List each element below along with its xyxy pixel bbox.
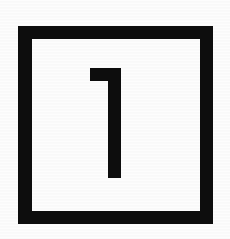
image-canvas [0,0,230,239]
square-outline-shape [18,26,213,224]
